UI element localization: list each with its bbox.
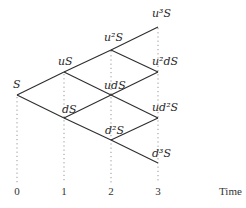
node-label-udS: udS bbox=[104, 80, 126, 91]
time-axis-title: Time bbox=[219, 186, 242, 197]
node-label-dS: dS bbox=[62, 104, 77, 115]
time-tick-3: 3 bbox=[155, 186, 161, 197]
node-label-uS: uS bbox=[58, 56, 73, 67]
node-label-u3S: u³S bbox=[152, 8, 171, 19]
node-label-u2dS: u²dS bbox=[152, 56, 178, 67]
time-tick-1: 1 bbox=[61, 186, 67, 197]
node-label-d3S: d³S bbox=[152, 148, 171, 159]
binomial-tree-diagram: S uS dS u²S udS d²S u³S u²dS ud²S d³S 0 … bbox=[0, 0, 246, 208]
node-label-ud2S: ud²S bbox=[152, 102, 178, 113]
node-label-u2S: u²S bbox=[104, 32, 123, 43]
node-label-S: S bbox=[13, 79, 21, 90]
time-tick-2: 2 bbox=[108, 186, 114, 197]
time-tick-0: 0 bbox=[14, 186, 20, 197]
tree-edges bbox=[17, 27, 158, 163]
node-label-d2S: d²S bbox=[105, 125, 124, 136]
